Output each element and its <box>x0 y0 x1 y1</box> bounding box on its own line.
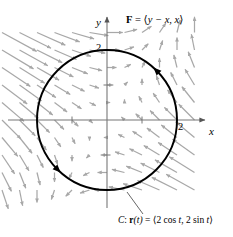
field-vector-arrow <box>20 138 33 154</box>
field-vector-arrow <box>125 29 138 32</box>
y-axis-tick-label-2: 2 <box>96 43 101 54</box>
field-close-angle: ⟩ <box>179 14 183 25</box>
field-vector-arrow <box>144 146 160 155</box>
field-vector-arrow <box>90 103 96 106</box>
field-equals: = <box>132 14 143 25</box>
field-vector-arrow <box>66 190 72 196</box>
field-vector-arrow <box>72 138 75 144</box>
field-vector-arrow <box>90 68 103 71</box>
field-vector-arrow <box>126 166 142 172</box>
y-axis-label: y <box>96 17 101 28</box>
field-vector-arrow <box>72 85 85 91</box>
field-vector-arrow <box>153 93 159 102</box>
field-vector-arrow <box>156 76 159 85</box>
field-vector-arrow <box>55 68 74 77</box>
field-vector-arrow <box>90 33 109 36</box>
field-vector-arrow <box>118 134 124 137</box>
field-vector-arrow <box>2 103 24 122</box>
field-vector-arrow <box>188 52 194 68</box>
field-vector-arrow <box>37 173 40 186</box>
field-vector-arrow <box>129 149 142 155</box>
field-vector-arrow <box>55 138 61 147</box>
field-vector-arrow <box>139 96 142 102</box>
field-vector-arrow <box>125 47 134 50</box>
field-vector-arrow <box>172 139 194 155</box>
field-vector-arrow <box>72 120 78 126</box>
field-vector-arrow <box>133 131 142 137</box>
field-vector-arrow <box>166 174 194 190</box>
field-component-1: y − x <box>148 14 170 25</box>
field-vector-arrow <box>185 69 194 85</box>
field-vector-arrow <box>69 173 72 179</box>
field-vector-arrow <box>20 190 23 206</box>
caption-component-2-prefix: 2 sin <box>186 215 207 225</box>
field-vector-arrow <box>55 103 68 112</box>
field-vector-arrow <box>2 33 37 52</box>
field-vector-arrow <box>2 173 11 192</box>
field-vector-arrow <box>2 68 30 87</box>
field-vector-arrow <box>20 103 39 119</box>
field-vector-arrow <box>90 85 99 88</box>
field-vector-arrow <box>142 61 145 67</box>
field-vector-arrow <box>72 33 94 39</box>
caption-close-angle: ⟩ <box>209 215 213 225</box>
field-vector-arrow <box>55 85 71 94</box>
x-axis-label: x <box>209 126 214 137</box>
figure-canvas <box>0 0 233 237</box>
field-vector-arrow <box>115 152 124 155</box>
field-vector-arrow <box>174 55 177 68</box>
field-vector-arrow <box>2 120 21 139</box>
field-vector-arrow <box>51 190 54 199</box>
caption-component-1-prefix: 2 cos <box>156 215 178 225</box>
field-vector-arrow <box>155 160 177 173</box>
field-vector-arrow <box>112 169 125 172</box>
field-vector-arrow <box>80 190 89 193</box>
field-vector-arrow <box>2 155 15 174</box>
field-vector-arrow <box>37 155 43 168</box>
field-vector-arrow <box>125 64 131 67</box>
caption-argument: (t) <box>134 215 143 225</box>
field-vector-arrow <box>182 87 195 103</box>
field-vector-arrow <box>142 26 151 32</box>
field-vector-arrow <box>55 155 58 164</box>
field-vector-arrow <box>160 41 163 50</box>
field-vector-arrow <box>150 111 159 120</box>
vector-field-label: F = ⟨y − x, x⟩ <box>126 15 183 26</box>
field-vector-arrow <box>83 173 89 176</box>
field-vector-arrow <box>158 142 177 155</box>
caption-equals: = <box>143 215 153 225</box>
field-vector-arrow <box>191 34 194 50</box>
field-vector-arrow <box>20 85 42 101</box>
field-vector-arrow <box>179 104 195 120</box>
field-vector-arrow <box>37 68 59 81</box>
field-vector-arrow <box>2 50 34 69</box>
field-vector-arrow <box>147 128 160 137</box>
field-vector-arrow <box>72 68 88 74</box>
curve-caption: C: r(t) = ⟨2 cos t, 2 sin t⟩ <box>118 216 213 226</box>
field-vector-arrow <box>171 72 177 85</box>
field-vector-arrow <box>2 190 8 209</box>
field-vector-arrow <box>142 44 148 50</box>
field-vector-arrow <box>125 82 128 85</box>
field-vector-arrow <box>72 103 81 109</box>
field-vector-arrow <box>136 114 142 120</box>
field-vector-arrow <box>20 155 29 171</box>
field-vector-arrow <box>141 163 160 172</box>
field-vector-arrow <box>86 155 89 158</box>
field-vector-arrow <box>20 120 36 136</box>
field-vector-arrow <box>55 120 64 129</box>
field-vector-arrow <box>37 120 50 133</box>
field-vector-arrow <box>164 107 177 120</box>
field-vector-arrow <box>2 138 18 157</box>
field-vector-arrow <box>20 173 26 189</box>
field-vector-arrow <box>20 33 52 49</box>
caption-leader-line <box>127 192 143 214</box>
vector-field-figure: y x 2 2 F = ⟨y − x, x⟩ C: r(t) = ⟨2 cos … <box>0 0 233 237</box>
field-vector-arrow <box>37 85 56 98</box>
x-axis-tick-label-2: 2 <box>178 122 183 133</box>
